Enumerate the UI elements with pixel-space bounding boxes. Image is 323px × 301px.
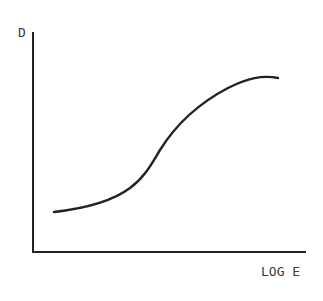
y-axis-label: D — [18, 25, 26, 40]
data-curve — [54, 77, 278, 212]
chart: D LOG E — [0, 0, 323, 301]
x-axis-label: LOG E — [261, 264, 300, 279]
